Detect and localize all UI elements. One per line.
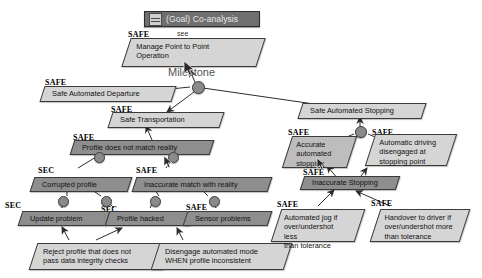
tag-safe-automated-jog: SAFE (277, 200, 298, 209)
node-label: Manage Point to Point Operation (136, 42, 209, 61)
node-profile-hacked[interactable]: Profile hacked (105, 211, 195, 226)
node-profile-does-not-match-reality[interactable]: Profile does not match reality (70, 140, 215, 155)
node-label: Safe Automated Departure (52, 89, 140, 98)
tag-safe-inaccurate-match: SAFE (136, 166, 157, 175)
node-sensor-problems[interactable]: Sensor problems (183, 211, 273, 226)
node-automated-jog[interactable]: Automated jog if over/undershot less tha… (271, 209, 366, 242)
junction-milestone[interactable] (192, 81, 205, 94)
junction-corrupted-profile[interactable] (94, 152, 105, 163)
diagram-canvas[interactable]: (Goal) Co-analysis SAFE SAFE SAFE SAFE S… (0, 0, 482, 278)
node-handover-to-driver[interactable]: Handover to driver if over/undershot mor… (370, 209, 471, 242)
node-update-problem[interactable]: Update problem (18, 211, 111, 226)
node-safe-automated-departure[interactable]: Safe Automated Departure (39, 86, 176, 102)
node-inaccurate-match-with-reality[interactable]: Inaccurate match with reality (132, 177, 273, 192)
node-label: Safe Transportation (120, 115, 185, 124)
tag-sec-corrupted-profile: SEC (38, 166, 54, 175)
node-label: Reject profile that does not pass data i… (43, 247, 131, 266)
mouse-cursor-icon-stopping (316, 157, 329, 174)
node-automatic-driving-disengaged[interactable]: Automatic driving disengaged at stopping… (365, 134, 457, 166)
tag-sec-update-problem: SEC (5, 201, 21, 210)
node-safe-automated-stopping[interactable]: Safe Automated Stopping (297, 103, 426, 119)
node-label: Safe Automated Stopping (310, 106, 394, 115)
node-label: Disengage automated mode WHEN profile in… (165, 247, 258, 266)
window-titlebar[interactable]: (Goal) Co-analysis (144, 11, 260, 27)
node-label: Inaccurate match with reality (144, 180, 238, 189)
junction-update-problem[interactable] (58, 196, 69, 207)
node-label: Profile does not match reality (82, 143, 177, 152)
goal-diagram-icon (149, 13, 162, 26)
node-corrupted-profile[interactable]: Corrupted profile (30, 177, 133, 192)
node-label: Profile hacked (117, 214, 164, 223)
node-label: Automatic driving disengaged at stopping… (379, 138, 436, 166)
annotation-see: see (177, 30, 188, 37)
junction-profile-hacked[interactable] (101, 196, 112, 207)
node-reject-profile[interactable]: Reject profile that does not pass data i… (29, 243, 172, 270)
window-title: (Goal) Co-analysis (166, 14, 238, 24)
mouse-cursor-icon-secondary (163, 155, 176, 172)
node-label: Corrupted profile (42, 180, 97, 189)
junction-sensor-problems[interactable] (209, 196, 220, 207)
mouse-cursor-icon (183, 60, 196, 77)
junction-stopping[interactable] (355, 126, 367, 138)
node-label: Inaccurate Stopping (312, 178, 378, 187)
node-disengage-automated-mode[interactable]: Disengage automated mode WHEN profile in… (151, 243, 293, 270)
node-inaccurate-stopping[interactable]: Inaccurate Stopping (300, 176, 401, 190)
node-label: Sensor problems (195, 214, 251, 223)
junction-sensor-source[interactable] (150, 196, 161, 207)
node-label: Automated jog if over/undershot less tha… (284, 213, 348, 251)
node-safe-transportation[interactable]: Safe Transportation (107, 112, 224, 128)
tag-safe-handover-to-driver: SAFE (371, 199, 392, 208)
node-label: Handover to driver if over/undershot mor… (384, 213, 452, 241)
node-label: Update problem (30, 214, 83, 223)
